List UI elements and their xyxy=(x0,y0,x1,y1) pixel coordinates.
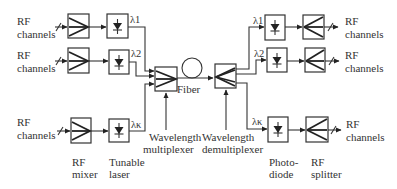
wavelength-multiplexer xyxy=(155,67,177,91)
tx-channel-k: RF channels λκ xyxy=(17,84,154,143)
rf-mixer-label: RF xyxy=(72,156,85,168)
svg-text:splitter: splitter xyxy=(311,168,342,180)
svg-text:RF: RF xyxy=(345,49,358,61)
svg-text:RF: RF xyxy=(345,15,358,27)
rx-channel-2: λ2 RF channels xyxy=(236,48,383,74)
rf-splitter-1 xyxy=(303,15,324,39)
rf-splitter-label: RF xyxy=(311,156,324,168)
svg-text:multiplexer: multiplexer xyxy=(143,143,194,155)
wdm-diagram: RF channels λ1 RF channels xyxy=(0,0,397,189)
svg-text:laser: laser xyxy=(109,168,130,180)
svg-text:channels: channels xyxy=(345,28,383,40)
tunable-laser-k xyxy=(109,119,129,142)
fiber-label: Fiber xyxy=(177,83,201,95)
svg-text:demultiplexer: demultiplexer xyxy=(202,143,263,155)
photodiode-k xyxy=(268,117,288,142)
svg-text:diode: diode xyxy=(269,168,294,180)
mux-label: Wavelength xyxy=(149,131,202,143)
svg-text:channels: channels xyxy=(17,129,55,141)
svg-text:RF: RF xyxy=(17,49,30,61)
rf-mixer-k xyxy=(71,118,91,143)
rf-channels-in-label: RF xyxy=(17,15,30,27)
svg-text:channels: channels xyxy=(17,28,55,40)
svg-text:RF: RF xyxy=(17,116,30,128)
fiber xyxy=(177,58,213,78)
photodiode-label: Photo- xyxy=(269,156,299,168)
rf-mixer-1 xyxy=(68,14,89,38)
svg-text:λ2: λ2 xyxy=(131,48,141,59)
svg-text:λκ: λκ xyxy=(131,119,142,130)
tunable-laser-label: Tunable xyxy=(109,156,145,168)
svg-text:channels: channels xyxy=(345,62,383,74)
svg-text:channels: channels xyxy=(17,62,55,74)
svg-text:channels: channels xyxy=(346,131,384,143)
rx-channel-k: λκ RF channels xyxy=(236,83,384,143)
tunable-laser-1 xyxy=(107,14,128,38)
photodiode-2 xyxy=(267,48,287,72)
rf-splitter-2 xyxy=(305,48,325,72)
svg-text:mixer: mixer xyxy=(72,168,98,180)
photodiode-1 xyxy=(265,15,285,40)
wavelength-label: λ1 xyxy=(130,14,140,25)
svg-text:λ2: λ2 xyxy=(254,48,264,59)
rf-mixer-2 xyxy=(68,48,89,73)
demux-label: Wavelength xyxy=(202,131,255,143)
wavelength-demultiplexer xyxy=(215,64,236,88)
rf-splitter-k xyxy=(306,117,328,142)
svg-text:RF: RF xyxy=(346,118,359,130)
tx-channel-2: RF channels λ2 xyxy=(17,48,154,76)
svg-text:λκ: λκ xyxy=(252,116,263,127)
tunable-laser-2 xyxy=(109,50,129,74)
svg-text:λ1: λ1 xyxy=(253,15,263,26)
